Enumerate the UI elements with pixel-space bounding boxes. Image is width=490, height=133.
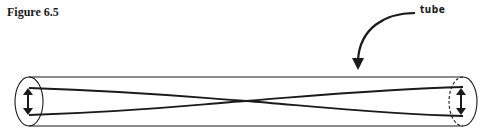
tube-pointer-arrow <box>352 13 415 70</box>
left-end-double-arrow-icon <box>23 88 33 115</box>
tube-diagram <box>0 0 490 133</box>
right-end-arc <box>463 77 477 126</box>
right-end-double-arrow-icon <box>456 88 466 115</box>
twisted-ribbon <box>29 87 463 116</box>
